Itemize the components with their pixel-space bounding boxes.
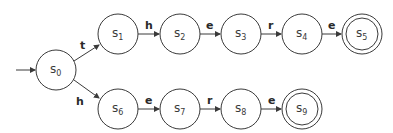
state-s3: s3 — [221, 14, 261, 54]
transition-s3-s4: r — [261, 19, 281, 34]
state-s4: s4 — [282, 14, 322, 54]
state-s7: s7 — [160, 89, 200, 129]
edge-label: e — [145, 94, 152, 107]
transition-s7-s8: r — [200, 94, 220, 109]
automaton-diagram: t h e r e h e r e s0 s1 s2 — [0, 0, 393, 133]
edge-label: h — [76, 95, 84, 108]
edge-label: e — [206, 19, 213, 32]
transition-s8-s9: e — [261, 94, 281, 109]
state-s8: s8 — [221, 89, 261, 129]
edge-label: e — [328, 19, 335, 32]
state-s9-accepting: s9 — [282, 89, 322, 129]
edge-label: h — [145, 19, 153, 32]
transition-s4-s5: e — [322, 19, 341, 34]
edge-label: r — [207, 94, 213, 107]
state-s0: s0 — [36, 50, 76, 90]
transition-s2-s3: e — [200, 19, 220, 34]
transition-s0-s6: h — [74, 80, 99, 108]
state-s1: s1 — [98, 14, 138, 54]
edge-label: r — [268, 19, 274, 32]
edge-label: t — [80, 39, 85, 52]
transition-s6-s7: e — [138, 94, 159, 109]
edge-label: e — [268, 94, 275, 107]
state-s6: s6 — [98, 89, 138, 129]
transition-s1-s2: h — [138, 19, 159, 34]
state-s2: s2 — [160, 14, 200, 54]
state-s5-accepting: s5 — [342, 14, 382, 54]
transition-s0-s1: t — [74, 39, 99, 61]
